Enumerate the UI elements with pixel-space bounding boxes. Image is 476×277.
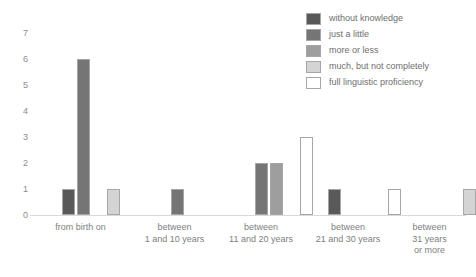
x-label-11-20-years: between 11 and 20 years [216, 222, 306, 245]
bar [107, 189, 120, 215]
legend-swatch-icon [306, 77, 321, 89]
legend-item-full-linguistic-proficiency: full linguistic proficiency [306, 75, 468, 90]
bar [388, 189, 401, 215]
x-label-from-birth-on: from birth on [38, 222, 123, 234]
y-tick-1: 1 [23, 185, 28, 194]
y-tick-2: 2 [23, 159, 28, 168]
legend-label: just a little [329, 30, 369, 39]
x-label-31-years-or-more: between 31 years or more [392, 222, 467, 257]
y-tick-0: 0 [23, 211, 28, 220]
y-tick-4: 4 [23, 107, 28, 116]
y-tick-6: 6 [23, 55, 28, 64]
legend-item-much-but-not-completely: much, but not completely [306, 59, 468, 74]
legend-item-more-or-less: more or less [306, 43, 468, 58]
legend-item-just-a-little: just a little [306, 27, 468, 42]
legend-label: more or less [329, 46, 379, 55]
legend-label: much, but not completely [329, 62, 429, 71]
bar [463, 189, 476, 215]
bar [328, 189, 341, 215]
legend-item-without-knowledge: without knowledge [306, 11, 468, 26]
bar [270, 163, 283, 215]
legend-swatch-icon [306, 13, 321, 25]
y-tick-7: 7 [23, 29, 28, 38]
x-axis-baseline [30, 215, 466, 216]
legend-swatch-icon [306, 61, 321, 73]
y-tick-3: 3 [23, 133, 28, 142]
y-tick-5: 5 [23, 81, 28, 90]
legend-swatch-icon [306, 29, 321, 41]
legend-label: full linguistic proficiency [329, 78, 423, 87]
y-axis: 7 6 5 4 3 2 1 0 [0, 0, 38, 277]
bar [62, 189, 75, 215]
bar [255, 163, 268, 215]
legend-label: without knowledge [329, 14, 403, 23]
x-label-1-10-years: between 1 and 10 years [132, 222, 217, 245]
legend: without knowledge just a little more or … [306, 11, 468, 91]
x-label-21-30-years: between 21 and 30 years [303, 222, 393, 245]
bar [77, 59, 90, 215]
legend-swatch-icon [306, 45, 321, 57]
bar [171, 189, 184, 215]
bar [300, 137, 313, 215]
